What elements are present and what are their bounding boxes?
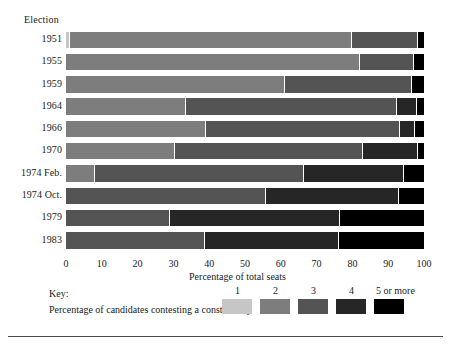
stacked-bar (66, 232, 424, 249)
stacked-bar (66, 32, 424, 49)
bar-segment (340, 210, 424, 227)
legend-swatch (298, 299, 328, 314)
x-tick-label: 60 (261, 257, 301, 270)
bar-segment (285, 76, 412, 93)
chart-page: Election 1951195519591964196619701974 Fe… (0, 0, 451, 345)
row-label-wrap: 1974 Oct. (0, 185, 62, 207)
row-label-wrap: 1955 (0, 51, 62, 73)
bar-row: 1951 (0, 29, 451, 51)
plot-area: Election 1951195519591964196619701974 Fe… (0, 14, 451, 262)
bar-segment (399, 188, 424, 205)
x-tick-label: 20 (118, 257, 158, 270)
legend-swatch (374, 299, 404, 314)
bar-row: 1974 Feb. (0, 163, 451, 185)
stacked-bar (66, 54, 424, 71)
bar-segment (418, 32, 424, 49)
bar-row: 1966 (0, 118, 451, 140)
stacked-bar (66, 165, 424, 182)
bar-segment (70, 32, 352, 49)
legend-entry-label: 4 (336, 284, 367, 297)
row-label: 1979 (0, 211, 62, 223)
bar-row: 1970 (0, 140, 451, 162)
bar-row: 1959 (0, 74, 451, 96)
row-label: 1974 Feb. (0, 167, 62, 179)
row-label: 1951 (0, 33, 62, 45)
bar-segment (66, 54, 360, 71)
legend: Key: Percentage of candidates contesting… (0, 288, 451, 328)
legend-swatch (336, 299, 366, 314)
bar-segment (205, 232, 339, 249)
row-label: 1959 (0, 78, 62, 90)
bar-segment (95, 165, 304, 182)
x-tick-label: 100 (404, 257, 444, 270)
x-tick-label: 50 (225, 257, 265, 270)
stacked-bar (66, 188, 424, 205)
bar-segment (415, 121, 424, 138)
legend-entry: 1 (222, 284, 253, 314)
cut-off-caption (0, 0, 451, 9)
bar-segment (206, 121, 400, 138)
row-label-wrap: 1959 (0, 74, 62, 96)
x-tick-label: 40 (189, 257, 229, 270)
legend-entries: 12345 or more (222, 284, 422, 322)
legend-entry: 3 (298, 284, 329, 314)
bar-segment (417, 98, 424, 115)
x-axis-title-text: Percentage of total seats (189, 271, 286, 283)
bar-segment (363, 143, 418, 160)
bar-segment (66, 210, 170, 227)
row-label-wrap: 1970 (0, 140, 62, 162)
row-label-wrap: 1979 (0, 207, 62, 229)
legend-swatch (222, 299, 252, 314)
legend-entry: 2 (260, 284, 291, 314)
row-label-wrap: 1964 (0, 96, 62, 118)
stacked-bar (66, 98, 424, 115)
bar-segment (66, 232, 205, 249)
bar-segment (186, 98, 397, 115)
bar-segment (414, 54, 424, 71)
legend-entry-label: 3 (298, 284, 329, 297)
bar-segment (66, 188, 266, 205)
row-label: 1955 (0, 55, 62, 67)
row-label: 1970 (0, 144, 62, 156)
bar-segment (266, 188, 399, 205)
row-label-wrap: 1983 (0, 230, 62, 252)
x-tick-label: 30 (153, 257, 193, 270)
row-label-wrap: 1974 Feb. (0, 163, 62, 185)
x-axis-title: Percentage of total seats (0, 271, 451, 283)
bar-row: 1983 (0, 230, 451, 252)
bar-segment (397, 98, 417, 115)
bar-segment (66, 121, 206, 138)
legend-entry: 4 (336, 284, 367, 314)
legend-title: Key: (49, 288, 68, 300)
bar-segment (304, 165, 404, 182)
bar-row: 1955 (0, 51, 451, 73)
bar-segment (66, 143, 175, 160)
stacked-bar (66, 210, 424, 227)
row-label: 1964 (0, 100, 62, 112)
legend-entry: 5 or more (374, 284, 405, 314)
bar-row: 1974 Oct. (0, 185, 451, 207)
legend-swatch (260, 299, 290, 314)
legend-entry-label: 2 (260, 284, 291, 297)
row-label-wrap: 1951 (0, 29, 62, 51)
stacked-bar (66, 76, 424, 93)
legend-entry-label: 1 (222, 284, 253, 297)
bar-segment (66, 98, 186, 115)
bar-segment (404, 165, 424, 182)
bar-segment (66, 165, 95, 182)
row-label: 1974 Oct. (0, 189, 62, 201)
x-tick-label: 10 (82, 257, 122, 270)
x-tick-label: 90 (368, 257, 408, 270)
bar-segment (400, 121, 415, 138)
bar-segment (170, 210, 340, 227)
bar-segment (360, 54, 414, 71)
bottom-rule (8, 336, 443, 337)
row-label: 1966 (0, 122, 62, 134)
bar-row: 1979 (0, 207, 451, 229)
bar-segment (339, 232, 424, 249)
bar-row: 1964 (0, 96, 451, 118)
bar-segment (418, 143, 424, 160)
x-tick-label: 70 (297, 257, 337, 270)
stacked-bar (66, 121, 424, 138)
y-axis-title: Election (24, 14, 59, 26)
